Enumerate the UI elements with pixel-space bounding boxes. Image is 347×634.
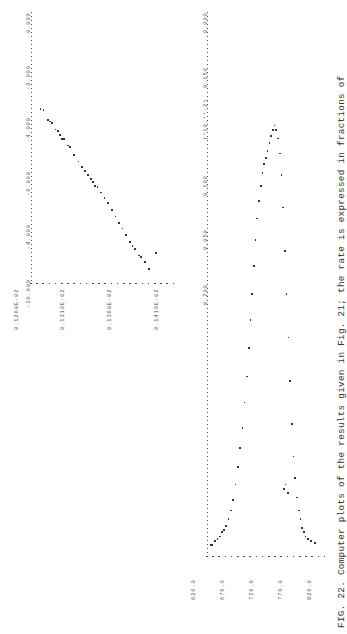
data-point: [132, 245, 134, 247]
data-point: [214, 540, 216, 542]
data-point: [279, 153, 281, 155]
data-point: [293, 456, 295, 458]
data-point: [228, 518, 230, 520]
data-point: [286, 293, 288, 295]
data-point: [155, 252, 157, 254]
data-point: [97, 186, 99, 188]
data-point: [300, 518, 302, 520]
left-panel-plot-area: [207, 12, 325, 556]
data-point: [230, 510, 232, 512]
data-point: [125, 234, 127, 236]
data-point: [223, 529, 225, 531]
right-value-tick-3: 0.1410E-02: [154, 289, 160, 330]
data-point: [265, 157, 267, 159]
data-point: [262, 172, 264, 174]
data-point: [277, 138, 279, 140]
data-point: [246, 376, 248, 378]
data-point: [90, 178, 92, 180]
data-point: [73, 154, 75, 156]
right-value-tick-2: 0.1360E-02: [107, 289, 113, 330]
data-point: [287, 492, 289, 494]
data-point: [118, 222, 120, 224]
left-value-tick-2: 726.0: [249, 579, 255, 600]
data-point: [288, 337, 290, 339]
data-point: [255, 239, 257, 241]
data-point: [267, 150, 269, 152]
data-point: [242, 427, 244, 429]
data-point: [84, 170, 86, 172]
data-point: [212, 544, 214, 546]
data-point: [301, 527, 303, 529]
data-point: [104, 197, 106, 199]
data-point: [258, 200, 260, 202]
data-point: [94, 185, 96, 187]
data-point: [260, 185, 262, 187]
data-point: [144, 261, 146, 263]
data-point: [303, 531, 305, 533]
data-point: [272, 129, 274, 131]
right-panel-plot-area: [31, 12, 178, 283]
data-point: [111, 209, 113, 211]
data-point: [78, 161, 80, 163]
data-point: [294, 477, 296, 479]
data-point: [107, 202, 109, 204]
data-point: [237, 466, 239, 468]
data-point: [285, 484, 287, 486]
data-point: [283, 488, 285, 490]
data-point: [148, 268, 150, 270]
left-panel-category-axis: [206, 556, 326, 557]
data-point: [282, 207, 284, 209]
data-point: [81, 166, 83, 168]
data-point: [63, 138, 65, 140]
chart-panel-left: 0.000 (*10.**-2) 0.100 0.050 0.150 0.200…: [180, 0, 343, 580]
data-point: [248, 347, 250, 349]
data-point: [275, 129, 277, 131]
data-point: [59, 134, 61, 136]
data-point: [43, 109, 45, 111]
data-point: [69, 146, 71, 148]
data-point: [250, 319, 252, 321]
data-point: [239, 447, 241, 449]
data-point: [235, 484, 237, 486]
data-point: [225, 525, 227, 527]
data-point: [40, 108, 42, 110]
figure-caption: FIG. 22. Computer plots of the results g…: [336, 75, 347, 628]
data-point: [263, 163, 265, 165]
right-panel-category-axis: [30, 283, 178, 284]
data-point: [129, 241, 131, 243]
data-point: [291, 423, 293, 425]
data-point: [307, 538, 309, 540]
data-point: [269, 142, 271, 144]
data-point: [289, 380, 291, 382]
data-point: [92, 181, 94, 183]
data-point: [134, 248, 136, 250]
data-point: [122, 228, 124, 230]
data-point: [219, 536, 221, 538]
data-point: [244, 402, 246, 404]
data-point: [87, 174, 89, 176]
data-point: [270, 135, 272, 137]
data-point: [298, 510, 300, 512]
right-axis-tick-5: -10.000: [26, 279, 32, 308]
data-point: [284, 250, 286, 252]
right-value-tick-1: 0.1310E-02: [60, 289, 66, 330]
data-point: [115, 216, 117, 218]
data-point: [57, 130, 59, 132]
data-point: [253, 265, 255, 267]
data-point: [256, 218, 258, 220]
data-point: [251, 293, 253, 295]
data-point: [221, 531, 223, 533]
data-point: [281, 174, 283, 176]
left-value-tick-3: 776.0: [278, 579, 284, 600]
data-point: [314, 542, 316, 544]
right-value-tick-0: 0.1260E-02: [14, 289, 20, 330]
data-point: [51, 122, 53, 124]
data-point: [232, 499, 234, 501]
left-value-tick-0: 626.0: [191, 579, 197, 600]
data-point: [274, 125, 276, 127]
chart-panel-right: 0.000 -2.000 -4.000 -6.000 -8.000 -10.00…: [0, 0, 180, 330]
left-value-tick-4: 826.0: [307, 579, 313, 600]
data-point: [310, 540, 312, 542]
data-point: [100, 192, 102, 194]
left-value-tick-1: 676.0: [220, 579, 226, 600]
